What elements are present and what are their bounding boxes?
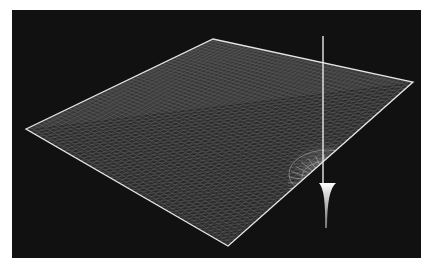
funnel-spike: [319, 183, 336, 228]
mesh-render: [0, 0, 431, 272]
